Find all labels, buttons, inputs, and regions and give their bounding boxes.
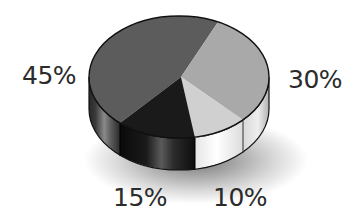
label-10-percent: 10% bbox=[213, 185, 267, 210]
label-45-percent: 45% bbox=[22, 63, 76, 88]
label-15-percent: 15% bbox=[113, 185, 167, 210]
pie-chart-graphic bbox=[0, 0, 360, 221]
label-30-percent: 30% bbox=[288, 67, 342, 92]
pie-chart: 45% 30% 15% 10% bbox=[0, 0, 360, 221]
